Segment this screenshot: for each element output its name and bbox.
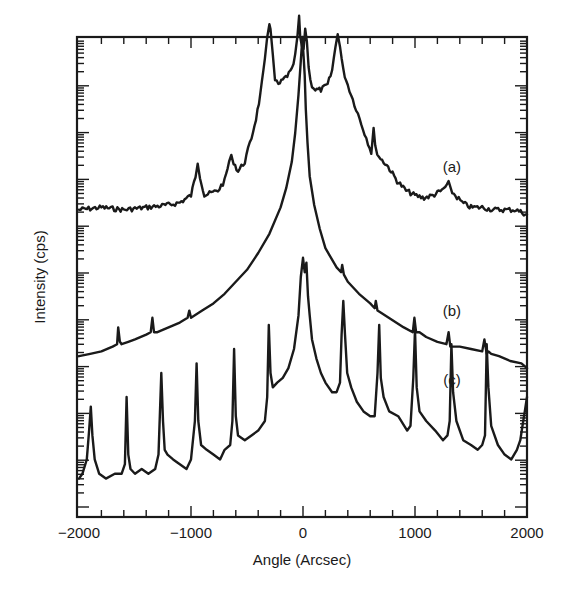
y-axis-title: Intensity (cps) [31, 230, 48, 323]
x-axis-title: Angle (Arcsec) [253, 551, 351, 568]
x-tick-label: 2000 [510, 524, 543, 541]
x-tick-label: 1000 [398, 524, 431, 541]
curve-label-a: (a) [443, 158, 461, 175]
curves [79, 16, 527, 479]
x-tick-label: 0 [299, 524, 307, 541]
xray-rocking-curve-chart: (a)(b)(c) −2000−1000010002000 Angle (Arc… [0, 0, 579, 595]
curve-label-b: (b) [443, 302, 461, 319]
x-axis-ticks [101, 37, 504, 517]
x-tick-label: −2000 [58, 524, 100, 541]
curve-c [79, 258, 527, 479]
x-axis-tick-labels: −2000−1000010002000 [58, 524, 544, 541]
curve-label-c: (c) [443, 371, 461, 388]
x-tick-label: −1000 [170, 524, 212, 541]
